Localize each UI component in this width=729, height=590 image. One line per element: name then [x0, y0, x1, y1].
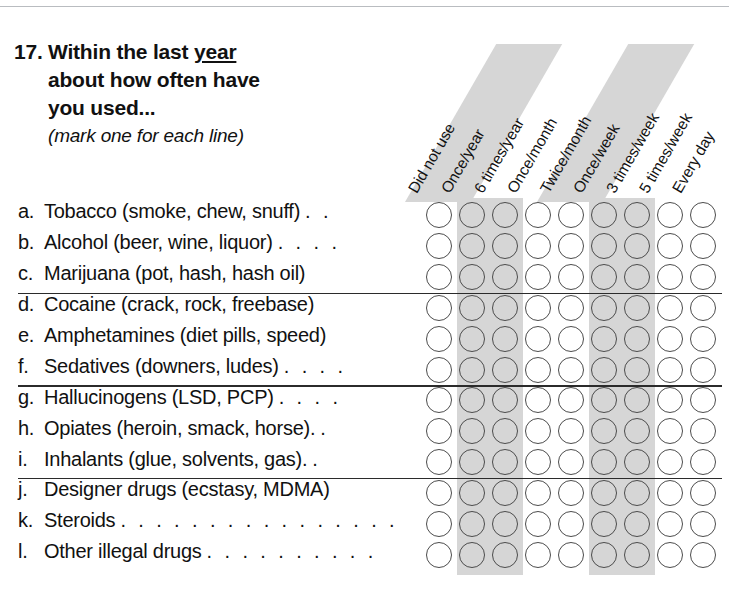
bubble-option[interactable]	[690, 326, 716, 352]
bubble-option[interactable]	[591, 480, 617, 506]
bubble-option[interactable]	[525, 449, 551, 475]
bubble-option[interactable]	[426, 449, 452, 475]
bubble-option[interactable]	[690, 542, 716, 568]
bubble-option[interactable]	[426, 295, 452, 321]
bubble-option[interactable]	[624, 233, 650, 259]
bubble-option[interactable]	[558, 202, 584, 228]
bubble-option[interactable]	[657, 418, 683, 444]
bubble-option[interactable]	[690, 264, 716, 290]
bubble-option[interactable]	[657, 295, 683, 321]
bubble-option[interactable]	[657, 233, 683, 259]
bubble-option[interactable]	[690, 233, 716, 259]
bubble-option[interactable]	[558, 326, 584, 352]
bubble-option[interactable]	[459, 326, 485, 352]
bubble-option[interactable]	[591, 202, 617, 228]
bubble-option[interactable]	[492, 480, 518, 506]
bubble-option[interactable]	[459, 449, 485, 475]
bubble-option[interactable]	[591, 542, 617, 568]
bubble-option[interactable]	[525, 357, 551, 383]
bubble-option[interactable]	[492, 418, 518, 444]
bubble-option[interactable]	[492, 233, 518, 259]
bubble-option[interactable]	[492, 387, 518, 413]
bubble-option[interactable]	[525, 387, 551, 413]
bubble-option[interactable]	[426, 387, 452, 413]
bubble-option[interactable]	[591, 387, 617, 413]
bubble-option[interactable]	[624, 295, 650, 321]
bubble-option[interactable]	[426, 418, 452, 444]
bubble-option[interactable]	[525, 264, 551, 290]
bubble-option[interactable]	[459, 511, 485, 537]
bubble-option[interactable]	[624, 202, 650, 228]
bubble-option[interactable]	[591, 295, 617, 321]
bubble-option[interactable]	[492, 542, 518, 568]
bubble-option[interactable]	[525, 326, 551, 352]
bubble-option[interactable]	[459, 295, 485, 321]
bubble-option[interactable]	[426, 511, 452, 537]
bubble-option[interactable]	[426, 264, 452, 290]
bubble-option[interactable]	[690, 480, 716, 506]
bubble-option[interactable]	[558, 418, 584, 444]
bubble-option[interactable]	[459, 387, 485, 413]
bubble-option[interactable]	[525, 511, 551, 537]
bubble-option[interactable]	[558, 264, 584, 290]
bubble-option[interactable]	[459, 480, 485, 506]
bubble-option[interactable]	[657, 202, 683, 228]
bubble-option[interactable]	[525, 418, 551, 444]
bubble-option[interactable]	[657, 326, 683, 352]
bubble-option[interactable]	[459, 357, 485, 383]
bubble-option[interactable]	[657, 449, 683, 475]
bubble-option[interactable]	[426, 202, 452, 228]
bubble-option[interactable]	[558, 449, 584, 475]
bubble-option[interactable]	[525, 295, 551, 321]
bubble-option[interactable]	[591, 449, 617, 475]
bubble-option[interactable]	[657, 387, 683, 413]
bubble-option[interactable]	[690, 449, 716, 475]
bubble-option[interactable]	[426, 233, 452, 259]
bubble-option[interactable]	[492, 326, 518, 352]
bubble-option[interactable]	[459, 264, 485, 290]
bubble-option[interactable]	[459, 418, 485, 444]
bubble-option[interactable]	[492, 264, 518, 290]
bubble-option[interactable]	[657, 480, 683, 506]
bubble-option[interactable]	[525, 233, 551, 259]
bubble-option[interactable]	[624, 387, 650, 413]
bubble-option[interactable]	[624, 542, 650, 568]
bubble-option[interactable]	[624, 418, 650, 444]
bubble-option[interactable]	[558, 542, 584, 568]
bubble-option[interactable]	[459, 542, 485, 568]
bubble-option[interactable]	[426, 542, 452, 568]
bubble-option[interactable]	[657, 357, 683, 383]
bubble-option[interactable]	[558, 233, 584, 259]
bubble-option[interactable]	[525, 202, 551, 228]
bubble-option[interactable]	[492, 357, 518, 383]
bubble-option[interactable]	[591, 233, 617, 259]
bubble-option[interactable]	[690, 511, 716, 537]
bubble-option[interactable]	[624, 264, 650, 290]
bubble-option[interactable]	[426, 357, 452, 383]
bubble-option[interactable]	[657, 264, 683, 290]
bubble-option[interactable]	[624, 449, 650, 475]
bubble-option[interactable]	[426, 326, 452, 352]
bubble-option[interactable]	[690, 202, 716, 228]
bubble-option[interactable]	[690, 418, 716, 444]
bubble-option[interactable]	[492, 295, 518, 321]
bubble-option[interactable]	[558, 511, 584, 537]
bubble-option[interactable]	[558, 295, 584, 321]
bubble-option[interactable]	[624, 480, 650, 506]
bubble-option[interactable]	[492, 202, 518, 228]
bubble-option[interactable]	[591, 418, 617, 444]
bubble-option[interactable]	[492, 511, 518, 537]
bubble-option[interactable]	[624, 357, 650, 383]
bubble-option[interactable]	[558, 357, 584, 383]
bubble-option[interactable]	[525, 542, 551, 568]
bubble-option[interactable]	[558, 480, 584, 506]
bubble-option[interactable]	[657, 542, 683, 568]
bubble-option[interactable]	[558, 387, 584, 413]
bubble-option[interactable]	[492, 449, 518, 475]
bubble-option[interactable]	[591, 357, 617, 383]
bubble-option[interactable]	[690, 357, 716, 383]
bubble-option[interactable]	[624, 511, 650, 537]
bubble-option[interactable]	[690, 387, 716, 413]
bubble-option[interactable]	[657, 511, 683, 537]
bubble-option[interactable]	[525, 480, 551, 506]
